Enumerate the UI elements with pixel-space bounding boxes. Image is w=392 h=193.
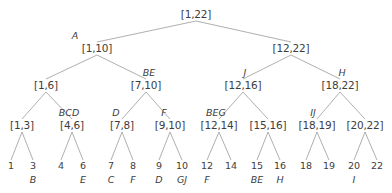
interval-tree-diagram: [1,22][1,10]A[12,22][1,6][7,10]BE[12,16]… [0,0,392,193]
tree-leaf-tag: F [204,175,209,185]
tree-node-tag-level4: BCD [59,108,79,118]
tree-leaf-number: 14 [225,161,237,171]
tree-edge [170,132,182,160]
tree-edge [122,132,133,160]
tree-leaf-number: 18 [300,161,312,171]
tree-leaf-tag: GJ [177,175,187,185]
tree-node-tag-level4: D [112,108,119,118]
tree-node-level4: [18,19] [299,120,336,131]
tree-leaf-number: 15 [251,161,263,171]
tree-node-level4: [12,14] [201,120,238,131]
tree-leaf-tag: H [276,175,283,185]
tree-node-level3: [7,10] [131,80,161,91]
tree-leaf-number: 19 [323,161,335,171]
tree-edge [257,132,268,160]
tree-leaf-tag: BE [251,175,264,185]
tree-node-tag-level3: BE [143,68,156,78]
tree-node-tag-level4: IJ [310,108,316,118]
tree-node-tag-level3: J [244,68,247,78]
tree-leaf-tag: F [130,175,135,185]
tree-edge [291,55,340,79]
tree-node-level4: [1,3] [10,120,34,131]
tree-node-tag-level3: H [338,68,345,78]
tree-node-root: [1,22] [181,9,211,20]
tree-edge [22,92,46,119]
tree-node-level4: [9,10] [155,120,185,131]
tree-leaf-tag: C [108,175,115,185]
tree-node-level2: [1,10] [82,43,112,54]
tree-leaf-number: 16 [274,161,286,171]
tree-leaf-number: 4 [58,161,64,171]
tree-leaf-number: 6 [80,161,86,171]
tree-leaf-tag: E [80,175,86,185]
tree-edge [365,132,377,160]
tree-edge [97,21,196,42]
tree-leaf-number: 20 [348,161,360,171]
tree-node-tag-level4: BEG [206,108,226,118]
tree-edge [268,132,280,160]
tree-edge [317,92,340,119]
tree-leaf-number: 10 [176,161,188,171]
tree-edge [243,55,291,79]
tree-leaf-number: 12 [201,161,213,171]
tree-node-level4: [15,16] [250,120,287,131]
tree-edge [354,132,365,160]
tree-leaf-number: 22 [371,161,383,171]
tree-leaf-tag: D [155,175,162,185]
tree-edge [61,132,72,160]
tree-node-level3: [12,16] [225,80,262,91]
tree-edge [11,132,22,160]
tree-leaf-number: 8 [130,161,136,171]
tree-edge [207,132,219,160]
tree-edge [340,92,365,119]
tree-edge [122,92,146,119]
tree-edge [97,55,146,79]
tree-node-level4: [20,22] [347,120,384,131]
tree-node-tag-level2: A [72,31,79,41]
tree-edge [243,92,268,119]
tree-node-level3: [1,6] [34,80,58,91]
tree-edge [111,132,122,160]
tree-edge [22,132,33,160]
tree-edge [72,132,83,160]
tree-node-level4: [4,6] [60,120,84,131]
tree-leaf-number: 1 [8,161,14,171]
tree-leaf-number: 9 [156,161,162,171]
tree-leaf-number: 7 [108,161,114,171]
tree-node-level3: [18,22] [322,80,359,91]
tree-node-level2: [12,22] [273,43,310,54]
tree-edge [219,132,231,160]
tree-edge [317,132,329,160]
tree-node-level4: [7,8] [110,120,134,131]
tree-leaf-tag: I [353,175,356,185]
tree-edge [46,55,97,79]
tree-edge [306,132,317,160]
tree-edge [196,21,291,42]
tree-node-tag-level4: F [161,108,166,118]
tree-edge [159,132,170,160]
tree-leaf-number: 3 [30,161,36,171]
tree-leaf-tag: B [30,175,37,185]
